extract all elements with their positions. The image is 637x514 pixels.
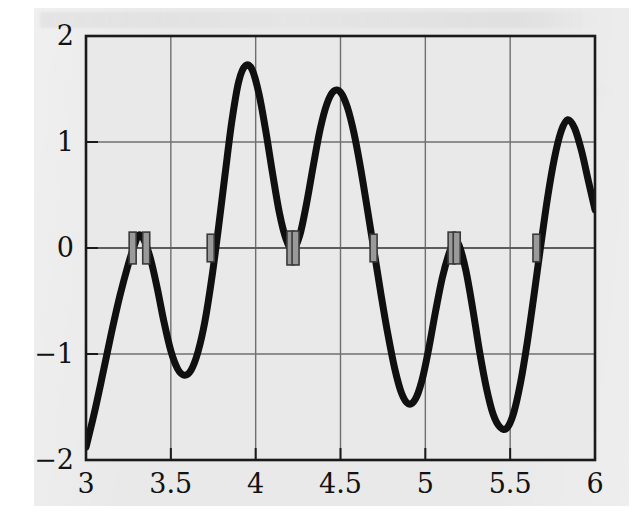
root-bracket-marker-2 [143, 232, 150, 264]
root-bracket-marker-3 [207, 234, 214, 262]
function-plot: 210−1−2 33.544.555.56 [0, 0, 637, 514]
chart-page: 210−1−2 33.544.555.56 [0, 0, 637, 514]
y-tick-label: −2 [34, 444, 74, 475]
y-tick-label: −1 [34, 338, 74, 369]
x-axis-tick-labels: 33.544.555.56 [77, 468, 603, 499]
root-bracket-marker-6 [370, 234, 377, 262]
x-tick-label: 3.5 [149, 468, 192, 499]
y-tick-label: 1 [57, 126, 74, 157]
root-bracket-marker-9 [533, 234, 540, 262]
x-tick-label: 5 [417, 468, 434, 499]
x-tick-label: 6 [586, 468, 603, 499]
x-tick-label: 4.5 [319, 468, 362, 499]
y-axis-tick-labels: 210−1−2 [34, 20, 74, 475]
x-tick-label: 3 [77, 468, 94, 499]
x-tick-label: 5.5 [489, 468, 532, 499]
root-bracket-marker-1 [129, 232, 136, 264]
y-tick-label: 2 [57, 20, 74, 51]
root-bracket-marker-5 [292, 231, 299, 265]
y-tick-label: 0 [57, 232, 74, 263]
root-bracket-marker-8 [453, 232, 460, 264]
x-tick-label: 4 [247, 468, 264, 499]
